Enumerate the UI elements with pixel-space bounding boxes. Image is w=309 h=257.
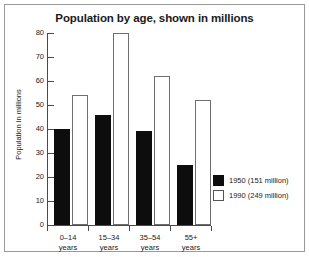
bar-1950-15-34	[95, 115, 111, 225]
bar-1990-55-plus	[195, 100, 211, 225]
x-tick-2	[129, 226, 130, 231]
bar-1950-55-plus	[177, 165, 193, 225]
bar-1990-15-34	[113, 33, 129, 225]
chart-screenshot: Population by age, shown in millions Pop…	[0, 0, 309, 257]
x-category-unit-55-plus: years	[164, 243, 218, 253]
bar-1990-35-54	[154, 76, 170, 225]
x-category-range-55-plus: 55+	[164, 233, 218, 243]
x-tick-3	[170, 226, 171, 231]
x-category-label-55-plus: 55+ years	[164, 233, 218, 252]
legend-label-1990: 1990 (249 million)	[229, 191, 289, 200]
legend-swatch-icon-1950	[213, 175, 224, 186]
bar-1990-0-14	[72, 95, 88, 225]
x-tick-4	[211, 226, 212, 231]
x-tick-0	[47, 226, 48, 231]
legend-item-1990: 1990 (249 million)	[213, 188, 289, 203]
chart-legend: 1950 (151 million) 1990 (249 million)	[213, 173, 289, 203]
bar-1950-35-54	[136, 131, 152, 225]
legend-swatch-icon-1990	[213, 190, 224, 201]
x-tick-1	[88, 226, 89, 231]
legend-label-1950: 1950 (151 million)	[229, 176, 289, 185]
bar-1950-0-14	[54, 129, 70, 225]
legend-item-1950: 1950 (151 million)	[213, 173, 289, 188]
